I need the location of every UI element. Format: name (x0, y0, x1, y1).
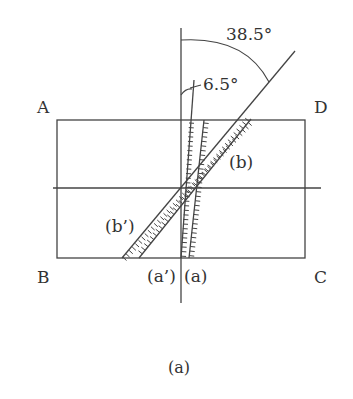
strip-label-a: (a) (184, 266, 207, 286)
corner-label-c: C (314, 267, 327, 287)
strip-label-a-prime: (a’) (147, 266, 176, 286)
diagram-figure: 38.5° 6.5° A D B C (b) (b’) (a’) (a) (a) (0, 0, 353, 399)
strip-label-b: (b) (229, 152, 253, 172)
corner-label-a: A (36, 97, 50, 117)
strip-label-b-prime: (b’) (105, 216, 135, 236)
hatch-marks (123, 118, 252, 260)
angle-label-6-5: 6.5° (203, 74, 239, 94)
diagram-canvas: 38.5° 6.5° A D B C (b) (b’) (a’) (a) (a) (0, 0, 353, 399)
angle-arc-6-5 (181, 89, 192, 95)
angle-label-38-5: 38.5° (226, 24, 272, 44)
figure-caption: (a) (168, 358, 190, 377)
angle-6-5-leader (190, 85, 201, 88)
corner-label-b: B (37, 267, 50, 287)
corner-label-d: D (314, 97, 328, 117)
